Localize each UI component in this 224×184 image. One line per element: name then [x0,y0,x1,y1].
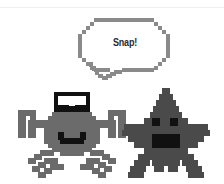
starfish-mouth [152,134,180,148]
crab-claw-left [18,110,48,138]
crab-claw-right [96,110,126,138]
starfish-eye-right [170,118,178,126]
speech-bubble [78,18,170,80]
starfish-body [122,88,210,178]
speech-bubble-text: Snap! [100,36,149,48]
crab-legs-right [80,150,116,178]
crab-body [44,112,100,156]
crab-eyes [54,92,90,114]
illustration-canvas: Snap! [0,0,224,184]
starfish-character [122,88,210,178]
starfish-eye-left [152,118,160,126]
crab-legs-left [28,150,64,178]
pixel-art-illustration [0,0,224,184]
crab-character [18,92,126,178]
